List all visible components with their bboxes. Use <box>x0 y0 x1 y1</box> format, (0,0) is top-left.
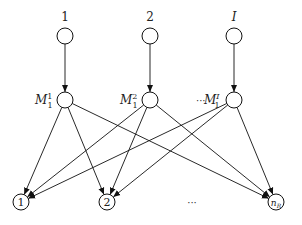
edge-mI-bR <box>237 107 273 194</box>
middle-node-label: MI1 <box>203 92 220 110</box>
node-mI <box>226 92 242 108</box>
edge-mI-b2 <box>113 105 228 197</box>
node-tI <box>226 28 242 44</box>
bottom-ellipsis: ··· <box>187 197 197 208</box>
middle-ellipsis: ··· <box>196 95 206 106</box>
network-diagram: 12IM11M21MI1···12nR··· <box>0 0 302 225</box>
top-node-label: 2 <box>146 10 154 24</box>
edge-m2-b1 <box>27 105 143 197</box>
node-m1 <box>57 92 73 108</box>
edge-m1-b1 <box>24 107 62 194</box>
nodes <box>13 28 284 210</box>
bottom-node-label: 2 <box>104 196 111 209</box>
top-node-label: 1 <box>61 10 69 24</box>
bottom-node-label: 1 <box>18 196 25 209</box>
middle-node-label: M11 <box>34 92 52 110</box>
top-node-label: I <box>231 10 237 24</box>
middle-node-label: M21 <box>119 92 137 110</box>
node-m2 <box>142 92 158 108</box>
diagram-svg: 12IM11M21MI1···12nR··· <box>0 0 302 225</box>
edge-m2-bR <box>156 105 270 197</box>
node-t2 <box>142 28 158 44</box>
edges <box>24 44 273 199</box>
node-t1 <box>57 28 73 44</box>
